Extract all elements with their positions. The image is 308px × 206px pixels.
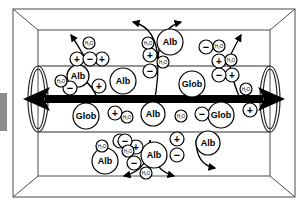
albumin-molecule-text: Alb	[201, 138, 216, 148]
albumin-molecule: Alb	[141, 102, 165, 126]
anion-ion-text: −	[147, 65, 153, 77]
water-molecule-text: H₂O	[159, 60, 168, 65]
globulin-molecule: Glob	[179, 71, 205, 97]
cation-ion: +	[225, 68, 239, 82]
water-molecule: H₂O	[83, 37, 95, 49]
cation-ion-text: +	[216, 56, 222, 67]
left-gray-bar	[0, 93, 7, 131]
water-molecule-text: H₂O	[57, 79, 66, 84]
globulin-molecule-text: Glob	[182, 79, 203, 89]
albumin-molecule-text: Alb	[147, 150, 162, 160]
anion-ion: −	[199, 40, 213, 54]
cation-ion: +	[70, 52, 84, 66]
water-molecule-text: H₂O	[144, 41, 153, 46]
cation-ion-text: +	[247, 105, 253, 116]
globulin-molecule-text: Glob	[211, 110, 232, 120]
albumin-molecule-text: Alb	[146, 109, 161, 119]
diagram-svg: GlobGlobGlobAlbAlbAlbAlbAlbAlbAlb+++++++…	[0, 0, 308, 206]
water-molecule-text: H₂O	[98, 144, 107, 149]
globulin-molecule-text: Glob	[76, 111, 97, 121]
anion-ion: −	[83, 52, 97, 66]
cation-ion: +	[170, 132, 184, 146]
water-molecule-text: H₂O	[242, 87, 251, 92]
albumin-molecule-text: Alb	[163, 37, 178, 47]
water-molecule: H₂O	[157, 56, 169, 68]
albumin-molecule: Alb	[141, 142, 167, 168]
water-molecule-text: H₂O	[124, 149, 133, 154]
anion-ion-text: −	[199, 108, 205, 120]
anion-ion-text: −	[203, 41, 209, 53]
albumin-molecule: Alb	[196, 131, 220, 155]
water-molecule: H₂O	[55, 75, 67, 87]
water-molecule: H₂O	[140, 167, 152, 179]
anion-ion: −	[195, 107, 209, 121]
water-molecule-text: H₂O	[142, 171, 151, 176]
albumin-molecule: Alb	[92, 148, 118, 174]
water-molecule: H₂O	[225, 54, 237, 66]
figure-canvas: GlobGlobGlobAlbAlbAlbAlbAlbAlbAlb+++++++…	[0, 0, 308, 206]
cation-ion-text: +	[96, 81, 102, 92]
anion-ion-text: −	[216, 69, 222, 81]
water-molecule: H₂O	[121, 111, 133, 123]
cation-ion: +	[108, 106, 122, 120]
albumin-molecule: Alb	[110, 68, 136, 94]
cation-ion-text: +	[229, 70, 235, 81]
anion-ion-text: −	[87, 53, 93, 65]
cation-ion: +	[143, 48, 157, 62]
water-molecule: H₂O	[213, 40, 225, 52]
anion-ion-text: −	[174, 149, 180, 161]
cation-ion-text: +	[99, 54, 105, 65]
water-molecule: H₂O	[175, 110, 187, 122]
anion-ion: −	[127, 156, 141, 170]
water-molecule-text: H₂O	[215, 44, 224, 49]
water-molecule-text: H₂O	[123, 115, 132, 120]
cation-ion-text: +	[112, 108, 118, 119]
cation-ion-text: +	[147, 50, 153, 61]
cation-ion: +	[212, 54, 226, 68]
albumin-molecule-text: Alb	[116, 76, 131, 86]
water-molecule: H₂O	[142, 37, 154, 49]
albumin-molecule-text: Alb	[98, 156, 113, 166]
albumin-molecule-text: Alb	[71, 71, 86, 81]
cation-ion-text: +	[74, 54, 80, 65]
water-molecule-text: H₂O	[85, 41, 94, 46]
anion-ion-text: −	[131, 157, 137, 169]
cation-ion-text: +	[174, 134, 180, 145]
anion-ion-text: −	[67, 82, 73, 94]
globulin-molecule: Glob	[73, 103, 99, 129]
anion-ion: −	[143, 64, 157, 78]
albumin-molecule: Alb	[157, 29, 183, 55]
cation-ion: +	[92, 79, 106, 93]
water-molecule-text: H₂O	[227, 58, 236, 63]
water-molecule: H₂O	[122, 145, 134, 157]
water-molecule: H₂O	[240, 83, 252, 95]
water-molecule-text: H₂O	[177, 114, 186, 119]
water-molecule: H₂O	[96, 140, 108, 152]
anion-ion: −	[212, 68, 226, 82]
cation-ion: +	[243, 103, 257, 117]
anion-ion: −	[170, 148, 184, 162]
globulin-molecule: Glob	[208, 102, 234, 128]
